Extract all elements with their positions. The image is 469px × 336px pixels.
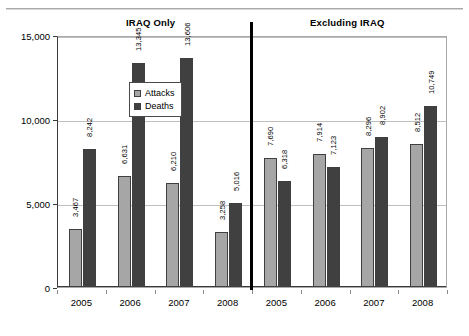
bar-deaths[interactable] [375, 137, 388, 287]
y-axis-tick-mark [53, 120, 57, 121]
legend-label-attacks: Attacks [145, 88, 175, 98]
bar-wrapper: 8,296 [361, 35, 374, 287]
x-axis-tick-label: 2005 [71, 297, 92, 308]
chart-figure: IRAQ Only Excluding IRAQ 3,4678,2426,631… [0, 0, 469, 336]
panel-title-excluding-iraq: Excluding IRAQ [310, 17, 385, 28]
bar-group: 3,2585,016 [204, 37, 253, 287]
bar-wrapper: 10,749 [424, 35, 437, 287]
x-axis-tick-mark [252, 290, 253, 294]
bar-deaths[interactable] [278, 181, 291, 287]
legend-item-deaths: Deaths [134, 100, 175, 112]
bar-value-label: 6,318 [280, 150, 289, 169]
bar-value-label: 8,902 [377, 106, 386, 125]
x-axis-tick-mark [57, 290, 58, 294]
x-axis-tick-label: 2006 [315, 297, 336, 308]
y-axis-tick-label: 5,000 [0, 199, 50, 210]
bar-value-label: 7,690 [266, 127, 275, 146]
legend-swatch-deaths-icon [134, 103, 141, 110]
x-axis-tick-label: 2007 [363, 297, 384, 308]
legend-item-attacks: Attacks [134, 87, 175, 99]
bar-value-label: 6,210 [168, 151, 177, 170]
x-axis-tick-mark [203, 290, 204, 294]
bar-attacks[interactable] [410, 144, 423, 287]
bar-wrapper: 8,512 [410, 35, 423, 287]
bar-deaths[interactable] [424, 106, 437, 287]
x-axis-tick-mark [155, 290, 156, 294]
bar-attacks[interactable] [361, 148, 374, 287]
bar-value-label: 8,242 [85, 117, 94, 136]
bar-wrapper: 3,467 [69, 35, 82, 287]
bar-wrapper: 8,902 [375, 35, 388, 287]
x-axis: 20052006200720082005200620072008 [57, 290, 447, 314]
x-axis-tick-label: 2008 [412, 297, 433, 308]
bar-wrapper: 7,123 [327, 35, 340, 287]
bar-value-label: 5,016 [231, 171, 240, 190]
bar-value-label: 3,258 [217, 201, 226, 220]
legend-label-deaths: Deaths [145, 101, 174, 111]
bar-deaths[interactable] [229, 203, 242, 287]
bar-deaths[interactable] [83, 149, 96, 287]
bar-value-label: 8,512 [412, 113, 421, 132]
bar-wrapper: 13,606 [180, 35, 193, 287]
bar-group: 7,9147,123 [302, 37, 351, 287]
bar-wrapper: 6,318 [278, 35, 291, 287]
bar-value-label: 13,606 [182, 23, 191, 47]
y-axis-tick-label: 15,000 [0, 31, 50, 42]
bar-attacks[interactable] [69, 229, 82, 287]
bar-wrapper: 6,631 [118, 35, 131, 287]
bar-attacks[interactable] [264, 158, 277, 287]
top-divider-rule [6, 8, 463, 10]
x-axis-tick-label: 2006 [120, 297, 141, 308]
chart-legend: Attacks Deaths [129, 82, 182, 117]
panel-divider-line [250, 22, 253, 290]
bar-value-label: 3,467 [71, 197, 80, 216]
bar-wrapper: 3,258 [215, 35, 228, 287]
x-axis-tick-mark [350, 290, 351, 294]
x-axis-tick-label: 2005 [266, 297, 287, 308]
bar-value-label: 10,749 [426, 71, 435, 95]
bar-attacks[interactable] [118, 176, 131, 287]
x-axis-tick-mark [447, 290, 448, 294]
legend-swatch-attacks-icon [134, 90, 141, 97]
bar-value-label: 7,914 [315, 123, 324, 142]
bar-wrapper: 6,210 [166, 35, 179, 287]
bar-value-label: 6,631 [120, 144, 129, 163]
x-axis-tick-mark [301, 290, 302, 294]
bar-wrapper: 8,242 [83, 35, 96, 287]
bar-deaths[interactable] [327, 167, 340, 287]
bar-group: 3,4678,242 [58, 37, 107, 287]
bar-group: 7,6906,318 [253, 37, 302, 287]
bar-attacks[interactable] [313, 154, 326, 287]
bar-group: 6,63113,345 [107, 37, 156, 287]
bar-group: 6,21013,606 [156, 37, 205, 287]
bar-group: 8,2968,902 [351, 37, 400, 287]
x-axis-tick-label: 2007 [168, 297, 189, 308]
bar-deaths[interactable] [180, 58, 193, 287]
bar-wrapper: 13,345 [132, 35, 145, 287]
bar-group: 8,51210,749 [399, 37, 448, 287]
bar-wrapper: 5,016 [229, 35, 242, 287]
x-axis-tick-mark [398, 290, 399, 294]
y-axis-tick-mark [53, 36, 57, 37]
y-axis-tick-label: 10,000 [0, 115, 50, 126]
y-axis-tick-label: 0 [0, 283, 50, 294]
bar-value-label: 13,345 [134, 27, 143, 51]
y-axis-tick-mark [53, 288, 57, 289]
bar-attacks[interactable] [166, 183, 179, 287]
bar-value-label: 8,296 [363, 116, 372, 135]
y-axis-tick-mark [53, 204, 57, 205]
bar-wrapper: 7,690 [264, 35, 277, 287]
bar-value-label: 7,123 [329, 136, 338, 155]
x-axis-tick-mark [106, 290, 107, 294]
bar-wrapper: 7,914 [313, 35, 326, 287]
x-axis-tick-label: 2008 [217, 297, 238, 308]
panel-title-iraq-only: IRAQ Only [126, 17, 175, 28]
bar-attacks[interactable] [215, 232, 228, 287]
